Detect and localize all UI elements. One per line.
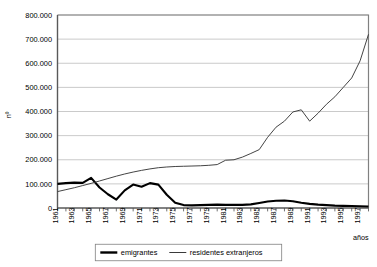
xtick-label-1993: 1993 (319, 208, 328, 224)
xtick-label-1975: 1975 (168, 208, 177, 224)
xtick-label-1971: 1971 (135, 208, 144, 224)
legend-label-emigrantes: emigrantes (121, 248, 158, 257)
xtick-label-1961: 1961 (51, 208, 60, 224)
x-axis-title: años (353, 233, 369, 242)
xtick-label-1985: 1985 (252, 208, 261, 224)
ytick-label-8: 800.000 (25, 11, 52, 20)
ytick-label-4: 400.000 (25, 107, 52, 116)
xtick-label-1991: 1991 (303, 208, 312, 224)
xtick-label-1963: 1963 (67, 208, 76, 224)
xtick-label-1977: 1977 (185, 208, 194, 224)
xtick-label-1973: 1973 (151, 208, 160, 224)
legend-label-residentes-extranjeros: residentes extranjeros (190, 248, 263, 257)
xtick-label-1983: 1983 (235, 208, 244, 224)
xtick-label-1995: 1995 (336, 208, 345, 224)
xtick-label-1997: 1997 (353, 208, 362, 224)
xtick-label-1987: 1987 (269, 208, 278, 224)
chart-container: 0100.000200.000300.000400.000500.000600.… (0, 0, 377, 267)
ytick-label-3: 300.000 (25, 131, 52, 140)
ytick-label-7: 700.000 (25, 35, 52, 44)
xtick-label-1967: 1967 (101, 208, 110, 224)
xtick-label-1969: 1969 (118, 208, 127, 224)
ytick-label-5: 500.000 (25, 83, 52, 92)
ytick-label-1: 100.000 (25, 180, 52, 189)
xtick-label-1989: 1989 (286, 208, 295, 224)
xtick-label-1965: 1965 (84, 208, 93, 224)
emigration-residents-line-chart: 0100.000200.000300.000400.000500.000600.… (0, 0, 377, 267)
ytick-label-2: 200.000 (25, 155, 52, 164)
xtick-label-1981: 1981 (219, 208, 228, 224)
ytick-label-6: 600.000 (25, 59, 52, 68)
xtick-label-1979: 1979 (202, 208, 211, 224)
y-axis-title: nº (4, 111, 13, 118)
